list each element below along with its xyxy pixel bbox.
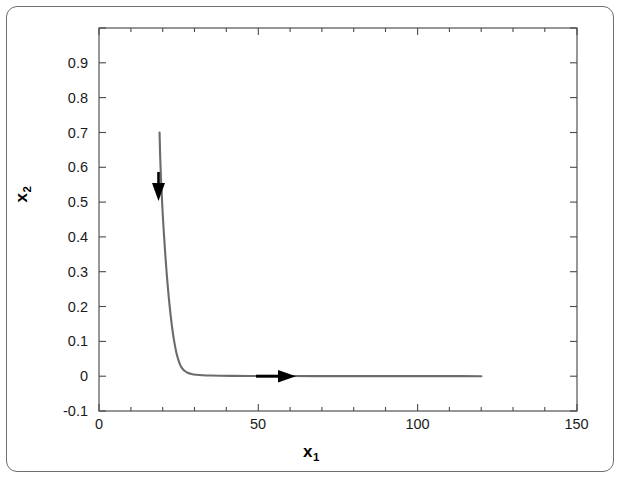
y-tick-label-0.6: 0.6 xyxy=(38,160,88,175)
figure-canvas: 0.9 0.8 0.7 0.6 0.5 0.4 0.3 0.2 0.1 0 -0… xyxy=(0,0,622,480)
y-axis-title-text: x xyxy=(12,193,31,202)
x-axis-title: x1 xyxy=(303,443,319,460)
y-tick-label-0: 0 xyxy=(38,369,88,384)
y-tick-label-0.3: 0.3 xyxy=(38,265,88,280)
y-tick-label-0.2: 0.2 xyxy=(38,300,88,315)
y-tick-label-0.8: 0.8 xyxy=(38,91,88,106)
y-axis-title: x2 xyxy=(13,187,30,203)
x-tick-label-100: 100 xyxy=(395,417,440,432)
right-arrow-icon xyxy=(256,370,296,382)
plot-svg xyxy=(0,0,622,480)
y-axis-ticks-left xyxy=(99,28,106,411)
y-tick-label-0.7: 0.7 xyxy=(38,126,88,141)
x-axis-ticks-top xyxy=(99,28,577,35)
y-tick-label-0.5: 0.5 xyxy=(38,195,88,210)
x-axis-title-text: x xyxy=(303,442,312,461)
y-axis-ticks-right xyxy=(570,28,577,411)
y-tick-label-0.9: 0.9 xyxy=(38,56,88,71)
x-axis-title-subscript: 1 xyxy=(313,451,319,463)
y-tick-label-0.4: 0.4 xyxy=(38,230,88,245)
x-tick-label-50: 50 xyxy=(238,417,278,432)
x-axis-ticks-bottom xyxy=(99,404,577,411)
y-tick-label-neg0.1: -0.1 xyxy=(30,404,88,419)
y-tick-label-0.1: 0.1 xyxy=(38,334,88,349)
y-axis-title-subscript: 2 xyxy=(21,186,33,192)
down-arrow-icon xyxy=(152,172,165,201)
trajectory-curve xyxy=(160,132,482,376)
plot-box xyxy=(99,28,577,411)
x-tick-label-0: 0 xyxy=(84,417,114,432)
x-tick-label-150: 150 xyxy=(554,417,599,432)
